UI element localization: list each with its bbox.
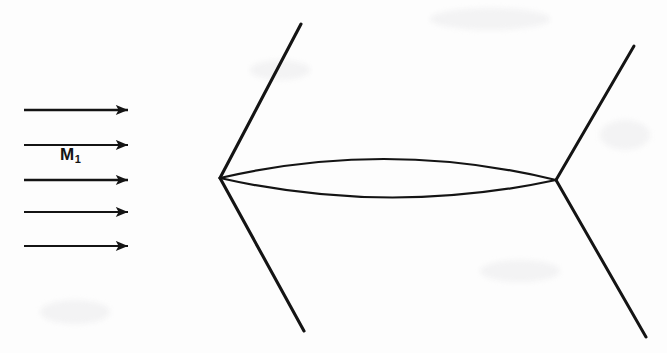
mach-subscript: 1 bbox=[75, 153, 81, 165]
biconvex-airfoil bbox=[220, 159, 556, 198]
mach-symbol: M bbox=[60, 145, 74, 164]
trailing-edge-lower-shock-line bbox=[556, 180, 646, 337]
aerodynamics-diagram bbox=[0, 0, 667, 353]
trailing-edge-upper-shock-line bbox=[556, 46, 634, 180]
freestream-flow-arrows bbox=[24, 110, 128, 246]
leading-edge-lower-shock-line bbox=[220, 178, 304, 331]
freestream-mach-label: M1 bbox=[60, 146, 80, 163]
leading-edge-upper-shock-line bbox=[220, 24, 301, 178]
airfoil-lower-surface bbox=[220, 178, 556, 198]
airfoil-upper-surface bbox=[220, 159, 556, 180]
figure-canvas: M1 bbox=[0, 0, 667, 353]
shock-wave-lines bbox=[220, 24, 646, 337]
